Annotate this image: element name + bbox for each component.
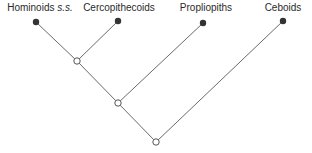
label-ceboids: Ceboids — [265, 2, 302, 14]
label-cercopithecoids: Cercopithecoids — [83, 2, 155, 14]
branch-propliopiths — [118, 23, 203, 103]
branch-node2-node3 — [118, 103, 156, 142]
internal-node-2 — [115, 100, 121, 106]
leaf-dot-hominoids — [33, 19, 39, 25]
branch-cercopithecoids — [77, 21, 118, 61]
leaf-dot-ceboids — [280, 18, 286, 24]
internal-node-1 — [74, 58, 80, 64]
leaf-dot-cercopithecoids — [115, 18, 121, 24]
branch-node1-node2 — [77, 61, 118, 103]
branch-hominoids — [36, 22, 77, 61]
internal-node-3 — [153, 139, 159, 145]
cladogram — [0, 0, 312, 153]
branch-ceboids — [156, 21, 283, 142]
label-hominoids-text: Hominoids — [7, 2, 54, 13]
leaf-dot-propliopiths — [200, 20, 206, 26]
leaf-markers — [33, 18, 286, 26]
label-hominoids-suffix: s.s. — [57, 2, 73, 13]
label-propliopiths: Propliopiths — [180, 2, 232, 14]
label-hominoids: Hominoids s.s. — [7, 2, 73, 14]
branch-lines — [36, 21, 283, 142]
